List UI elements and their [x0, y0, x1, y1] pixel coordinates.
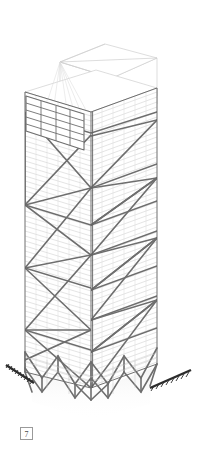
figure-number-label: 7 [20, 427, 33, 440]
isometric-tower-diagram [0, 0, 203, 459]
right-facade [91, 88, 157, 388]
ground-line-right [150, 370, 191, 391]
